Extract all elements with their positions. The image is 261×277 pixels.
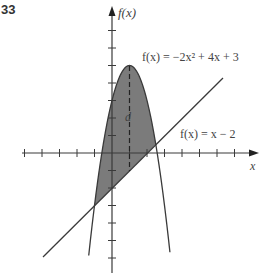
- distance-label: d: [125, 110, 132, 124]
- x-axis-label: x: [249, 159, 256, 173]
- line-label: f(x) = x − 2: [180, 127, 236, 141]
- x-axis-arrow-icon: [249, 150, 259, 157]
- shaded-region: [95, 66, 156, 206]
- y-axis-label: f(x): [118, 5, 136, 20]
- y-axis-arrow-icon: [109, 6, 116, 16]
- graph: f(x) x f(x) = −2x² + 4x + 3 f(x) = x − 2…: [0, 0, 261, 277]
- parabola-label: f(x) = −2x² + 4x + 3: [142, 50, 239, 64]
